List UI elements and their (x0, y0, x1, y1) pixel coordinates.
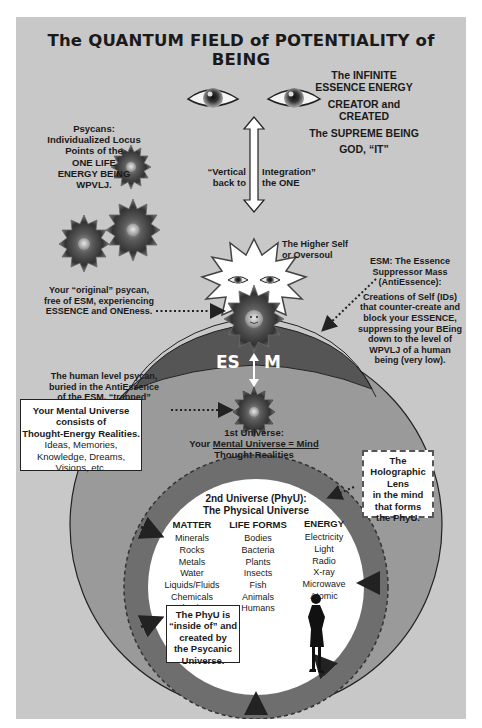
first-universe-underlined: Mental Universe = Mind (213, 438, 319, 449)
esm-body-5: down to the level of (354, 334, 466, 345)
mental-box-line-5: Knowledge, Dreams, (21, 451, 141, 462)
esm-body-7: being (very low). (354, 355, 466, 366)
esm-body-4: suppressing your BEing (354, 324, 466, 335)
supreme-line-3: CREATOR and (284, 98, 444, 110)
energy-item: Microwave (284, 579, 364, 591)
psycans-line-6: WPVLJ. (34, 179, 154, 190)
vertical-integration-arrow (244, 117, 264, 212)
psycans-line-1: Psycans: (34, 123, 154, 134)
psycans-line-5: ENERGY BEING (34, 168, 154, 179)
vi-right-2: the ONE (262, 177, 342, 188)
lens-line-4: in the mind (364, 489, 432, 500)
supreme-line-6: GOD, “IT” (284, 143, 444, 155)
psycan-icon-3 (106, 199, 160, 261)
first-universe-line-2: Your Mental Universe = Mind (166, 438, 342, 449)
original-psycan-label: Your “original” psycan, free of ESM, exp… (34, 285, 164, 317)
esm-body-2: that counter-create and (354, 302, 466, 313)
vi-right-1: Integration” (262, 166, 342, 177)
energy-item: X-ray (284, 567, 364, 579)
human-psycan-line-2: buried in the AntiEssence (36, 382, 172, 393)
first-universe-line-1: 1st Universe: (166, 427, 342, 438)
diagram-panel: The QUANTUM FIELD of POTENTIALITY of BEI… (16, 17, 466, 719)
supreme-being-label: The INFINITE ESSENCE ENERGY CREATOR and … (284, 69, 444, 155)
energy-item: Atomic (284, 591, 364, 603)
energy-column: ENERGY Electricity Light Radio X-ray Mic… (284, 518, 364, 602)
energy-item: Light (284, 544, 364, 556)
energy-header: ENERGY (284, 518, 364, 530)
lens-line-5: that forms (364, 501, 432, 512)
esm-body-3: block your ESSENCE, (354, 313, 466, 324)
supreme-line-1: The INFINITE (284, 69, 444, 81)
phyu-box: The PhyU is “inside of” and created by t… (166, 605, 240, 663)
esm-dome-label-left: ES (216, 352, 240, 372)
original-psycan-line-3: ESSENCE and ONEness. (34, 306, 164, 317)
psycans-line-2: Individualized Locus (34, 134, 154, 145)
supreme-line-2: ESSENCE ENERGY (284, 81, 444, 93)
mental-box-line-3: Thought-Energy Realities. (21, 428, 141, 439)
mental-box-line-6: Visions, etc. (21, 462, 141, 473)
esm-dome-label-right: M (264, 352, 281, 372)
human-psycan-line-1: The human level psycan, (36, 371, 172, 382)
lens-line-1: The (364, 455, 432, 466)
holographic-lens-box: The Holographic Lens in the mind that fo… (362, 450, 434, 518)
second-universe-line-1: 2nd Universe (PhyU): (176, 493, 336, 505)
vi-left-1: “Vertical (176, 166, 246, 177)
higher-self-line-2: or Oversoul (282, 250, 362, 261)
esm-description: ESM: The Essence Suppressor Mass (AntiEs… (354, 256, 466, 366)
supreme-line-5: The SUPREME BEING (284, 127, 444, 139)
phyu-line-4: the Psycanic (167, 643, 239, 654)
second-universe-line-2: The Physical Universe (176, 505, 336, 517)
psycans-line-4: ONE LIFE (34, 157, 154, 168)
higher-self-line-1: The Higher Self (282, 239, 362, 250)
eye-left-icon (188, 88, 238, 108)
first-universe-line-3: Thought Realities (166, 449, 342, 460)
vi-left-2: back to (176, 177, 246, 188)
psycans-line-3: Points of the (34, 145, 154, 156)
lens-line-2: Holographic (364, 466, 432, 477)
esm-heading-2: Suppressor Mass (354, 267, 466, 278)
second-universe-label: 2nd Universe (PhyU): The Physical Univer… (176, 493, 336, 517)
vertical-integration-left: “Vertical back to (176, 166, 246, 188)
esm-heading-1: ESM: The Essence (354, 256, 466, 267)
mental-box-line-1: Your Mental Universe (21, 405, 141, 416)
esm-body-6: WPVLJ of a human (354, 345, 466, 356)
original-psycan-line-2: free of ESM, experiencing (34, 296, 164, 307)
esm-heading-3: (AntiEssence): (354, 277, 466, 288)
phyu-line-5: Universe. (167, 655, 239, 666)
vertical-integration-right: Integration” the ONE (262, 166, 342, 188)
energy-item: Radio (284, 556, 364, 568)
original-psycan-line-1: Your “original” psycan, (34, 285, 164, 296)
first-universe-label: 1st Universe: Your Mental Universe = Min… (166, 427, 342, 461)
first-universe-prefix: Your (189, 438, 213, 449)
psycans-label: Psycans: Individualized Locus Points of … (34, 123, 154, 190)
psycan-icon-2 (59, 215, 109, 272)
supreme-line-4: CREATED (284, 110, 444, 122)
mental-universe-box: Your Mental Universe consists of Thought… (20, 399, 142, 471)
phyu-line-3: created by (167, 632, 239, 643)
energy-item: Electricity (284, 532, 364, 544)
mental-box-line-4: Ideas, Memories, (21, 439, 141, 450)
lens-line-3: Lens (364, 478, 432, 489)
lens-line-6: the PhyU. (364, 512, 432, 523)
mental-box-line-2: consists of (21, 416, 141, 427)
phyu-line-2: “inside of” and (167, 620, 239, 631)
esm-body-1: Creations of Self (IDs) (354, 292, 466, 303)
phyu-line-1: The PhyU is (167, 609, 239, 620)
higher-self-label: The Higher Self or Oversoul (282, 239, 362, 260)
